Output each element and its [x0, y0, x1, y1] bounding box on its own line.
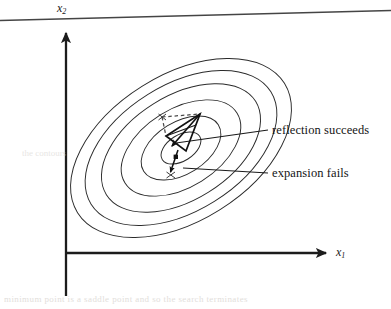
x-axis-label: x1	[336, 245, 345, 260]
leader-expansion	[183, 168, 268, 173]
expansion-fails-label: expansion fails	[272, 166, 349, 181]
centroid-point-marker	[174, 155, 178, 159]
simplex-point-markers	[159, 114, 179, 178]
vertex-tick-lower	[167, 172, 176, 178]
y-axis-label: x2	[57, 1, 66, 16]
expansion-arrow	[171, 150, 179, 172]
reflection-succeeds-label: reflection succeeds	[272, 123, 369, 138]
coordinate-axes	[66, 33, 326, 296]
simplex-contour-figure	[0, 0, 391, 309]
